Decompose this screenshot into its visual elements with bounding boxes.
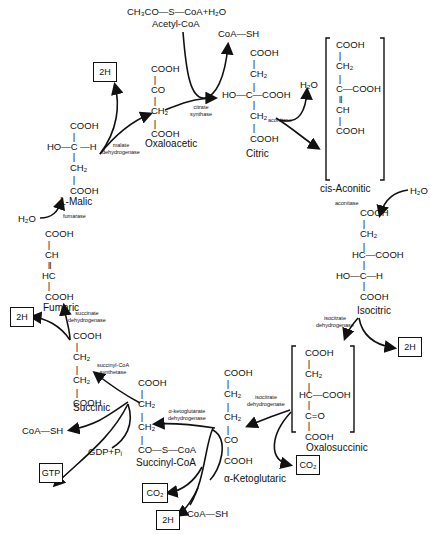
cis-aconitic-structure: COOH |CH2 |C—COOH ‖CH |COOH bbox=[336, 40, 381, 137]
coa-sh-akg: CoA—SH bbox=[187, 508, 228, 519]
citric-core: HO—C—COOH bbox=[222, 90, 291, 101]
product-co2-oxalosuccinic: CO₂ bbox=[296, 455, 320, 475]
coa-sh-released: CoA—SH bbox=[218, 28, 259, 39]
isocitric-structure-bottom: |COOH bbox=[360, 281, 389, 302]
enzyme-succinate-dehydrogenase: succinate dehydrogenase bbox=[68, 310, 106, 324]
h2o-fumarase: H₂O bbox=[18, 213, 36, 224]
acetyl-coa-formula: CH₃CO—S—CoA+H₂O bbox=[127, 6, 226, 17]
succinyl-coa-label: Succinyl-CoA bbox=[136, 457, 196, 468]
acetyl-coa-label: Acetyl-CoA bbox=[152, 18, 200, 29]
fumaric-structure-top: COOH |CH ‖ bbox=[45, 229, 74, 271]
enzyme-fumarase: fumarase bbox=[63, 213, 86, 220]
enzyme-malate-dehydrogenase: malate dehydrogenase bbox=[102, 142, 140, 156]
enzyme-aconitase-1: aconitase bbox=[268, 117, 292, 124]
product-2h-akg: 2H bbox=[156, 510, 180, 530]
cis-aconitic-label: cis-Aconitic bbox=[320, 183, 371, 194]
alpha-ketoglutaric-structure: COOH |CH2 |CH2 |CO |COOH bbox=[224, 368, 253, 467]
isocitric-structure-top: COOH |CH2 | bbox=[360, 208, 389, 252]
h2o-added: H₂O bbox=[410, 185, 428, 196]
gdp-pi: GDP+Pᵢ bbox=[88, 446, 122, 457]
enzyme-isocitrate-dh-1: isocitrate dehydrogenase bbox=[316, 315, 354, 329]
oxaloacetic-label: Oxaloacetic bbox=[145, 138, 197, 149]
oxalosuccinic-label: Oxalosuccinic bbox=[306, 442, 368, 453]
enzyme-citrate-synthase: citrate synthase bbox=[190, 104, 212, 118]
enzyme-succinyl-coa-synthetase: succinyl-CoA synthetase bbox=[97, 362, 129, 376]
isocitric-label: Isocitric bbox=[357, 305, 391, 316]
oxaloacetic-structure: COOH |CO |CH2 |COOH bbox=[151, 64, 180, 140]
product-2h-isocitrate: 2H bbox=[398, 337, 422, 357]
isocitric-bond: | bbox=[360, 260, 365, 271]
oxalosuccinic-lower: |C=O |COOH bbox=[305, 400, 334, 442]
alpha-ketoglutaric-label: α-Ketoglutaric bbox=[224, 473, 286, 484]
citric-structure: COOH |CH2 | bbox=[250, 48, 279, 92]
l-malic-structure-top: COOH | bbox=[70, 121, 99, 142]
coa-sh-succinyl: CoA—SH bbox=[22, 425, 63, 436]
succinic-label: Succinic bbox=[73, 402, 110, 413]
enzyme-akg-dehydrogenase: α-ketoglutarate dehydrogenase bbox=[168, 408, 206, 422]
enzyme-isocitrate-dh-2: isocitrate dehydrogenase bbox=[247, 394, 285, 408]
product-co2-akg: CO₂ bbox=[142, 483, 168, 503]
fumaric-structure-bottom: |COOH bbox=[45, 281, 74, 302]
product-2h-succinate: 2H bbox=[10, 307, 34, 327]
h2o-released: H₂O bbox=[300, 79, 318, 90]
oxalosuccinic-structure: COOH |CH2 | bbox=[305, 348, 334, 392]
enzyme-aconitase-2: aconitase bbox=[335, 200, 359, 207]
l-malic-structure-bottom: |CH2 |COOH bbox=[70, 152, 99, 196]
product-gtp: GTP bbox=[39, 463, 63, 483]
product-2h-malate: 2H bbox=[93, 62, 117, 82]
citric-label: Citric bbox=[246, 148, 269, 159]
l-malic-label: L-Malic bbox=[60, 196, 92, 207]
